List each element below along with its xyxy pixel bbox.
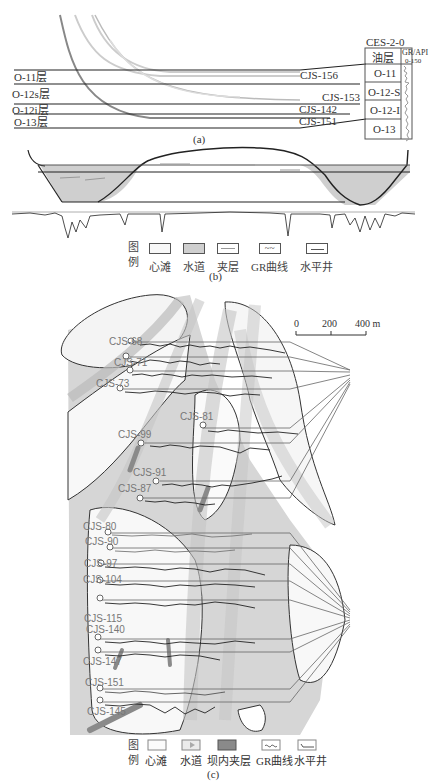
well-cjs81: CJS-81 — [180, 411, 213, 422]
panel-b-legend: 图 例 心滩 水道 夹层 ~~ GR曲线 水平井 — [128, 240, 345, 274]
legend-c-interlayer: 坝内夹层 — [207, 755, 251, 767]
layer-label-o13: O-13层 — [14, 116, 48, 128]
caption-c: (c) — [207, 768, 219, 780]
interlayer-swatch-icon — [217, 243, 239, 254]
well-cjs151: CJS-151 — [85, 677, 124, 688]
geology-figure — [0, 0, 439, 782]
table-row-o11: O-11 — [374, 67, 396, 79]
panel-b-gr-curve — [12, 212, 415, 238]
well-label-cjs142: CJS-142 — [299, 103, 337, 115]
layer-label-o12s: O-12s层 — [12, 88, 50, 100]
legend-item-channel: 水道 — [183, 240, 205, 274]
table-row-o12i: O-12-I — [370, 104, 400, 116]
well-cjs80: CJS-80 — [83, 521, 116, 532]
caption-b: (b) — [209, 270, 222, 282]
gr-curve-swatch-icon: ~~ — [259, 243, 281, 254]
channel-swatch-icon — [183, 243, 205, 254]
legend-item-interlayer: 夹层 — [217, 240, 239, 274]
well-cjs87: CJS-87 — [118, 483, 151, 494]
legend-title: 图 例 — [128, 240, 139, 270]
horizontal-well-swatch-icon — [306, 243, 328, 254]
legend-c-horizontal-well: 水平井 — [294, 755, 327, 767]
bar-swatch-icon — [149, 243, 171, 254]
well-cjs104: CJS-104 — [83, 574, 122, 585]
panel-b-section — [28, 148, 410, 206]
legend-item-horizontal-well: 水平井 — [300, 240, 333, 274]
panel-c-map — [61, 295, 366, 735]
reference-well-name: CES-2-0 — [366, 36, 405, 48]
legend-item-bar: 心滩 — [149, 240, 171, 274]
scale-tick-0: 0 — [294, 318, 299, 330]
well-cjs90: CJS-90 — [85, 536, 118, 547]
well-label-cjs151: CJS-151 — [299, 115, 337, 127]
table-row-o13: O-13 — [373, 123, 396, 135]
well-cjs71: CJS-71 — [114, 357, 147, 368]
well-cjs140: CJS-140 — [86, 624, 125, 635]
layer-label-o12i: O-12i层 — [12, 104, 49, 116]
scale-bar — [296, 331, 366, 335]
legend-title-top: 图 — [128, 240, 139, 255]
layer-label-o11: O-11层 — [14, 71, 47, 83]
table-row-o12s: O-12-S — [368, 86, 400, 98]
well-cjs147: CJS-147 — [83, 656, 122, 667]
well-cjs115: CJS-115 — [84, 613, 122, 624]
scale-tick-200: 200 — [322, 318, 337, 330]
panel-c-legend-title: 图 例 — [128, 738, 139, 768]
well-cjs68: CJS-68 — [109, 336, 142, 347]
panel-a-wells — [60, 15, 330, 118]
legend-c-channel: 水道 — [180, 755, 202, 767]
table-header-gr: GR/API — [402, 49, 428, 57]
well-label-cjs156: CJS-156 — [300, 69, 338, 81]
legend-item-gr-curve: ~~ GR曲线 — [251, 240, 288, 274]
legend-c-gr-curve: GR曲线 — [256, 755, 293, 767]
table-header-gr-range: 0-150 — [405, 57, 421, 65]
caption-a: (a) — [193, 133, 205, 145]
well-cjs73: CJS-73 — [96, 378, 129, 389]
table-header-layer: 油层 — [372, 52, 394, 64]
well-cjs97: CJS-97 — [84, 558, 117, 569]
panel-c-legend-symbols — [148, 740, 316, 750]
well-cjs99: CJS-99 — [118, 429, 151, 440]
scale-tick-400: 400 m — [355, 318, 380, 330]
legend-c-bar: 心滩 — [145, 755, 167, 767]
well-cjs145: CJS-145 — [87, 706, 126, 717]
well-label-cjs153: CJS-153 — [322, 91, 360, 103]
legend-title-bottom: 例 — [128, 255, 139, 270]
well-cjs91: CJS-91 — [133, 467, 166, 478]
